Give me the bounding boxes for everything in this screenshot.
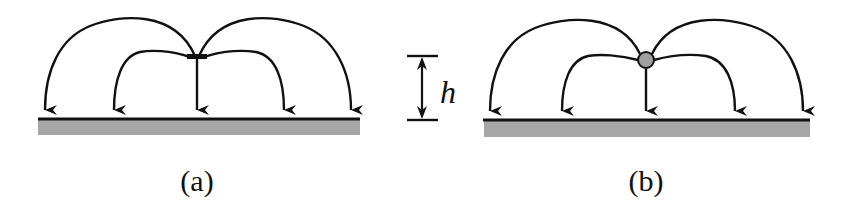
height-label: h (440, 74, 456, 110)
ground-plane-a (38, 120, 360, 135)
field-line-inner-right-a (204, 51, 284, 110)
field-line-outer-right-b (652, 20, 803, 111)
field-line-outer-left-b (490, 20, 640, 111)
caption-a: (a) (180, 164, 213, 198)
height-marker: h (407, 56, 456, 120)
diagram-canvas: (a) h (b) (0, 0, 854, 206)
field-line-inner-left-a (114, 51, 190, 110)
panel-b: (b) (483, 20, 810, 198)
point-source-icon (638, 52, 654, 68)
field-line-inner-right-b (654, 55, 735, 111)
field-line-outer-left-a (45, 18, 195, 110)
field-line-inner-left-b (562, 55, 638, 111)
bar-source-icon (187, 54, 207, 59)
panel-a: (a) (38, 18, 360, 198)
ground-plane-b (484, 121, 810, 137)
caption-b: (b) (629, 164, 664, 198)
